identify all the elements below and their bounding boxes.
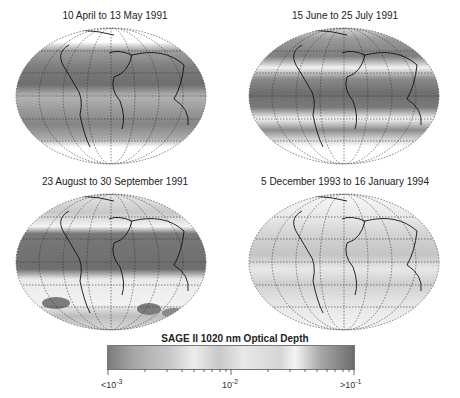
colorbar-label-min: <10-3 [101, 378, 123, 390]
colorbar-title: SAGE II 1020 nm Optical Depth [100, 333, 370, 344]
map-apr-may-1991 [14, 25, 208, 167]
colorbar [107, 345, 355, 370]
map-aug-sep-1991 [14, 191, 208, 333]
panel-title-1: 10 April to 13 May 1991 [0, 10, 230, 21]
colorbar-label-mid: 10-2 [222, 378, 238, 390]
colorbar-label-max: >10-1 [340, 378, 362, 390]
map-dec1993-jan1994 [247, 191, 441, 333]
panel-title-2: 15 June to 25 July 1991 [230, 10, 460, 21]
panel-title-4: 5 December 1993 to 16 January 1994 [230, 176, 460, 187]
panel-title-3: 23 August to 30 September 1991 [0, 176, 230, 187]
colorbar-ticks [107, 369, 355, 377]
map-jun-jul-1991 [247, 25, 441, 167]
